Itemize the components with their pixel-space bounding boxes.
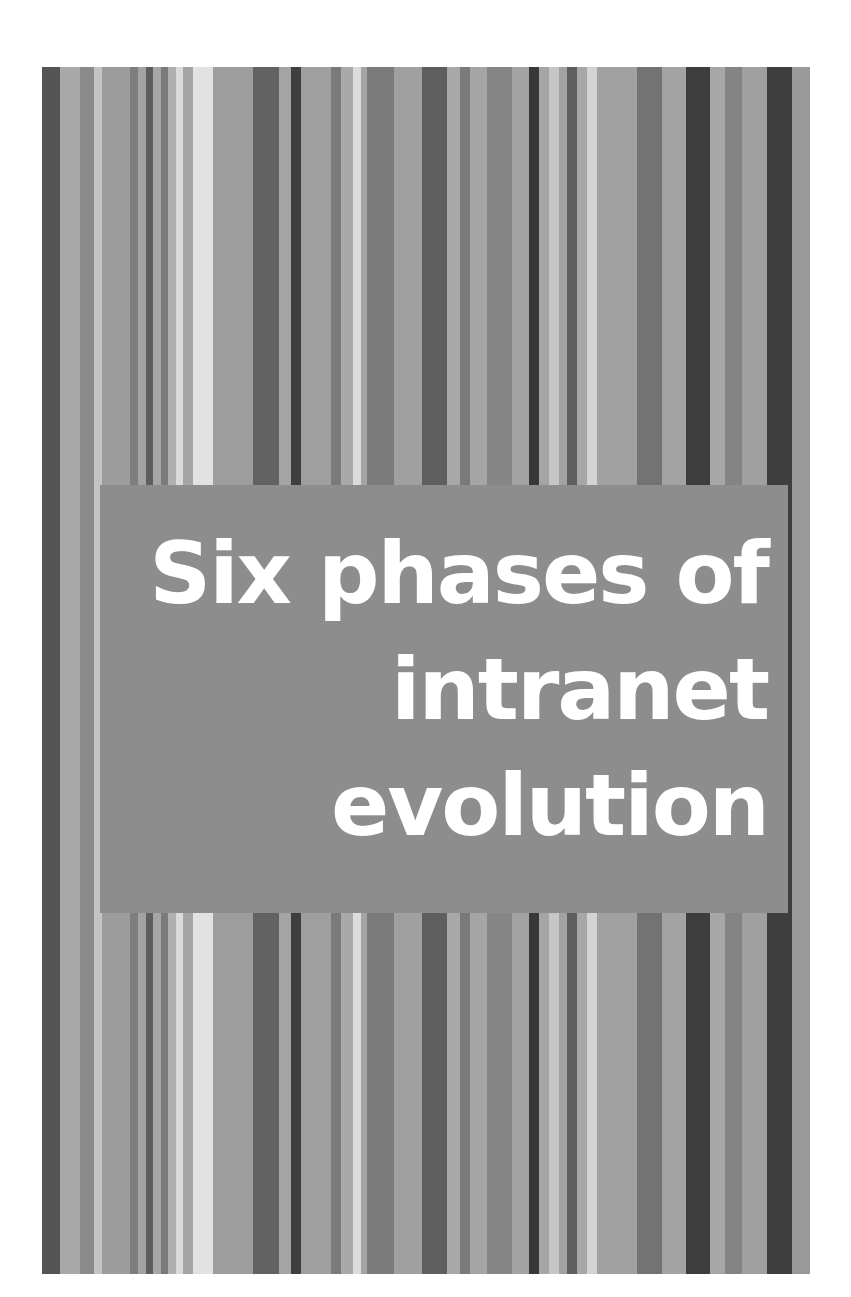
title-line-3: evolution bbox=[149, 747, 768, 863]
stripe bbox=[792, 67, 810, 1274]
stripe bbox=[42, 67, 60, 1274]
book-cover: Six phases of intranet evolution bbox=[42, 67, 810, 1274]
stripe bbox=[60, 67, 80, 1274]
stripe bbox=[80, 67, 94, 1274]
title-panel: Six phases of intranet evolution bbox=[100, 485, 788, 913]
cover-title: Six phases of intranet evolution bbox=[149, 515, 768, 863]
title-line-2: intranet bbox=[149, 631, 768, 747]
title-line-1: Six phases of bbox=[149, 515, 768, 631]
